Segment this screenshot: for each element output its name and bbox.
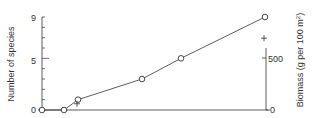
left-tick-label-5: 5 [31, 56, 36, 66]
species-point-marker [262, 14, 268, 20]
biomass-series [74, 35, 267, 107]
right-y-axis: 500 0 Biomass (g per 100 m2) [262, 13, 305, 115]
species-point-marker [61, 107, 67, 113]
left-axis-ticks [42, 17, 49, 110]
species-point-marker [39, 107, 45, 113]
left-tick-label-0: 0 [31, 105, 36, 115]
species-point-marker [139, 76, 145, 82]
species-series [39, 14, 268, 113]
right-axis-label: Biomass (g per 100 m2) [295, 13, 305, 107]
left-y-axis: 9 5 0 Number of species [6, 13, 49, 115]
biomass-plus-marker [261, 35, 267, 41]
right-tick-label-0: 0 [270, 105, 275, 115]
left-tick-label-9: 9 [31, 13, 36, 23]
species-biomass-chart: 9 5 0 Number of species 500 0 Biomass (g… [0, 0, 316, 118]
species-point-marker [75, 97, 81, 103]
species-line [42, 17, 265, 110]
right-tick-label-500: 500 [268, 54, 283, 64]
species-point-marker [178, 56, 184, 62]
left-axis-label: Number of species [6, 26, 16, 102]
